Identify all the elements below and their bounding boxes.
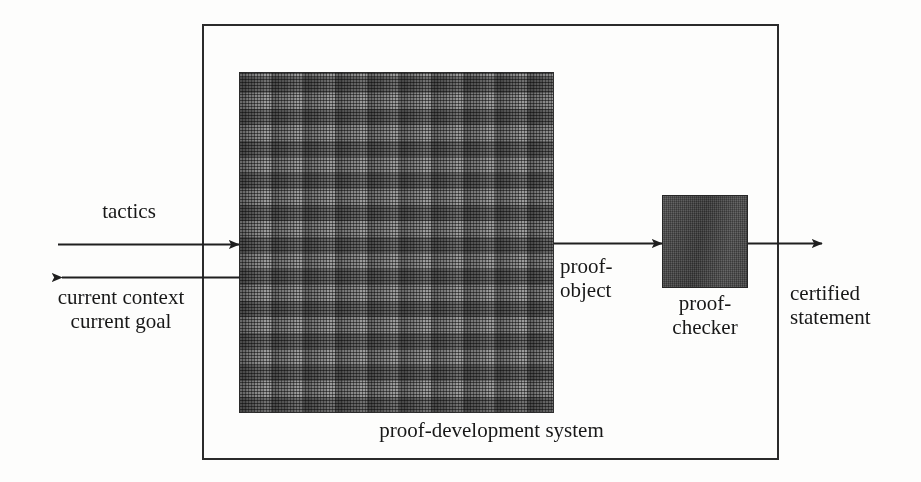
proof-checker-box xyxy=(662,195,748,288)
label-current-goal: current goal xyxy=(0,310,242,334)
label-proof-object-line2: object xyxy=(560,279,646,303)
proof-engine-box xyxy=(239,72,554,413)
label-proof-object-line1: proof- xyxy=(560,255,646,279)
label-certified-line2: statement xyxy=(790,306,920,330)
label-proof-checker-line1: proof- xyxy=(637,292,773,316)
label-current-context: current context xyxy=(0,286,242,310)
label-proof-checker-line2: checker xyxy=(637,316,773,340)
label-proof-checker: proof- checker xyxy=(637,292,773,339)
label-certified-statement: certified statement xyxy=(790,282,920,329)
label-certified-line1: certified xyxy=(790,282,920,306)
label-tactics: tactics xyxy=(0,200,258,224)
label-proof-object: proof- object xyxy=(560,255,646,302)
label-proof-development-system: proof-development system xyxy=(204,419,779,443)
label-current-context-goal: current context current goal xyxy=(0,286,242,333)
diagram-canvas: tactics current context current goal pro… xyxy=(0,0,921,482)
